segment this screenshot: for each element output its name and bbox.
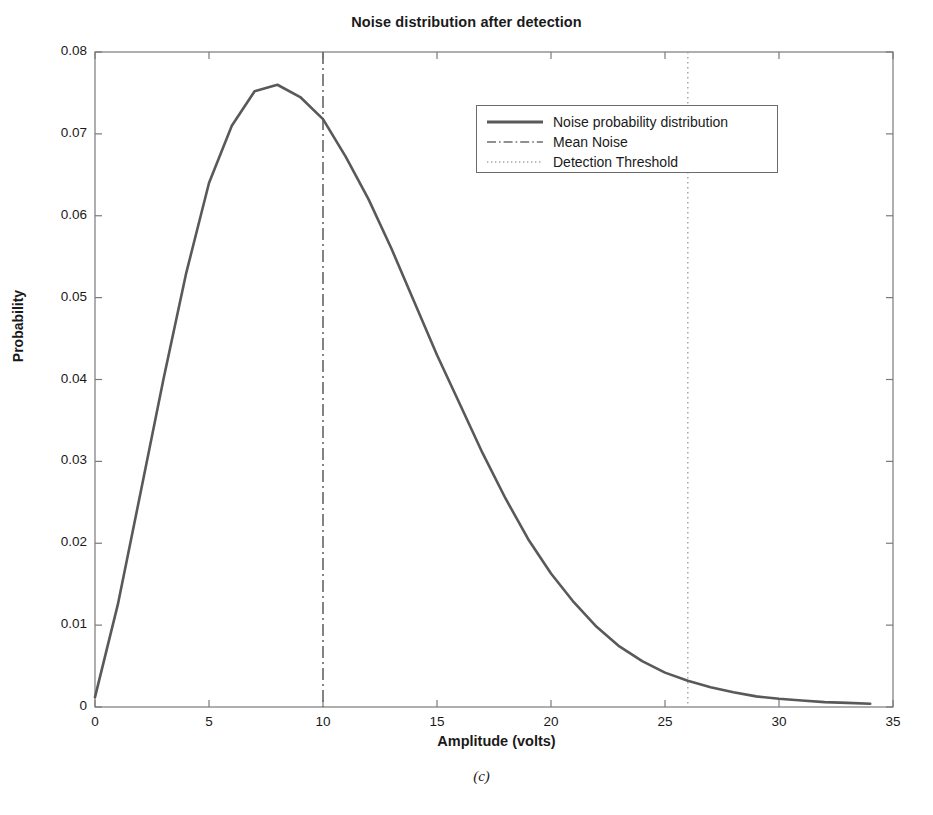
figure-container: Noise distribution after detection Proba…	[0, 0, 933, 815]
y-tick-label: 0.06	[25, 207, 87, 222]
legend-label-mean-noise: Mean Noise	[553, 135, 628, 149]
x-tick-label: 35	[873, 714, 913, 729]
legend-swatch-solid-line	[486, 116, 544, 128]
y-tick-label: 0.01	[25, 616, 87, 631]
y-tick-label: 0.02	[25, 534, 87, 549]
y-tick-label: 0.03	[25, 452, 87, 467]
noise-distribution-curve	[95, 85, 870, 704]
y-tick-label: 0	[25, 698, 87, 713]
legend-swatch-dashdot-line	[486, 136, 544, 148]
y-tick-label: 0.08	[25, 43, 87, 58]
x-tick-label: 30	[759, 714, 799, 729]
plot-canvas	[0, 0, 933, 815]
x-tick-label: 5	[189, 714, 229, 729]
legend-label-detection-threshold: Detection Threshold	[553, 155, 678, 169]
x-tick-label: 15	[417, 714, 457, 729]
legend-swatch-dotted-line	[486, 156, 544, 168]
legend-item-noise-probability-distribution: Noise probability distribution	[477, 111, 728, 132]
x-tick-label: 25	[645, 714, 685, 729]
y-tick-label: 0.07	[25, 125, 87, 140]
figure-subcaption: (c)	[0, 768, 933, 785]
legend: Noise probability distribution Mean Nois…	[476, 105, 778, 173]
y-tick-label: 0.04	[25, 371, 87, 386]
x-tick-label: 0	[75, 714, 115, 729]
x-tick-label: 10	[303, 714, 343, 729]
legend-item-detection-threshold: Detection Threshold	[477, 151, 678, 172]
y-tick-label: 0.05	[25, 289, 87, 304]
legend-label-noise-probability-distribution: Noise probability distribution	[553, 115, 728, 129]
x-tick-label: 20	[531, 714, 571, 729]
x-axis-label: Amplitude (volts)	[0, 733, 933, 749]
legend-item-mean-noise: Mean Noise	[477, 131, 628, 152]
